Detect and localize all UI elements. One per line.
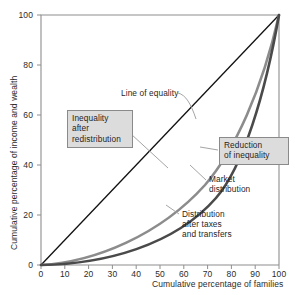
annotation-distribution-after-taxes: Distribution after taxes and transfers (182, 209, 232, 240)
after-taxes-line-3: and transfers (182, 229, 232, 239)
annotation-market-distribution: Market distribution (209, 174, 250, 194)
y-tick-label-80: 80 (11, 60, 33, 70)
reduction-box-line-2: of inequality (224, 150, 284, 160)
inequality-box-line-3: redistribution (72, 134, 128, 144)
after-taxes-line-2: after taxes (182, 219, 232, 229)
x-tick-label-10: 10 (53, 269, 77, 279)
annotation-line-of-equality: Line of equality (121, 88, 178, 98)
after-taxes-line-1: Distribution (182, 209, 232, 219)
x-tick-label-80: 80 (219, 269, 243, 279)
y-tick-label-100: 100 (11, 10, 33, 20)
market-distribution-leader (190, 165, 206, 180)
reduction-box-line-1: Reduction (224, 140, 284, 150)
inequality-box-line-2: after (72, 123, 128, 133)
reduction-box-leader (200, 147, 218, 150)
x-tick-label-70: 70 (196, 269, 220, 279)
x-tick-label-40: 40 (124, 269, 148, 279)
x-tick-label-0: 0 (29, 269, 53, 279)
after-taxes-leader (166, 205, 179, 214)
market-distribution-line-2: distribution (209, 184, 250, 194)
x-tick-label-100: 100 (267, 269, 291, 279)
x-tick-label-30: 30 (100, 269, 124, 279)
inequality-box-leader (131, 134, 168, 168)
x-tick-label-50: 50 (148, 269, 172, 279)
x-tick-label-60: 60 (172, 269, 196, 279)
x-tick-label-90: 90 (243, 269, 267, 279)
x-tick-label-20: 20 (77, 269, 101, 279)
inequality-box-line-1: Inequality (72, 113, 128, 123)
x-axis-title: Cumulative percentage of families (152, 279, 283, 289)
line-of-equality-leader (178, 93, 196, 119)
annotation-inequality-after-redistribution: Inequality after redistribution (67, 110, 133, 148)
y-axis-title: Cumulative percentage of income and weal… (9, 76, 19, 250)
market-distribution-line-1: Market (209, 174, 250, 184)
y-tick-marks (37, 15, 41, 265)
lorenz-curve-figure: 100 80 60 40 20 0 0 10 20 30 40 50 60 70… (0, 0, 295, 295)
annotation-reduction-of-inequality: Reduction of inequality (219, 137, 289, 165)
